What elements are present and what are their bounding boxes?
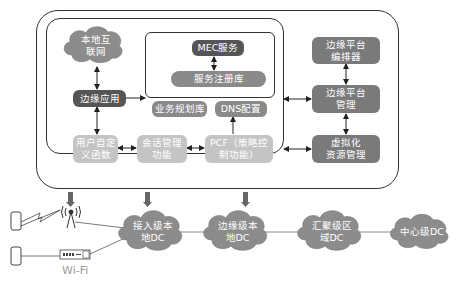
udf-node: 用户自定义函数	[73, 135, 118, 163]
node-label: 边缘应用	[80, 93, 120, 105]
edge-app-node: 边缘应用	[73, 90, 126, 107]
cloud-label-line: 地DC	[133, 232, 173, 244]
cloud-label: 中心级DC	[400, 226, 444, 238]
cloud-label-line: 接入级本	[133, 220, 173, 232]
edge-orchestrator-node: 边缘平台编排器	[312, 37, 380, 64]
node-label-line: 会话管理	[142, 137, 182, 149]
cloud-label-line: 本地互	[81, 34, 111, 46]
cloud-label-line: 域DC	[312, 232, 352, 244]
phone-icon	[11, 212, 21, 265]
node-label: 业务规划库	[155, 103, 205, 115]
node-label-line: 边缘平台	[326, 87, 366, 99]
mec-service-node: MEC服务	[192, 40, 244, 56]
node-label-line: 功能	[142, 149, 182, 161]
wifi-label: Wi-Fi	[62, 264, 88, 277]
node-label-line: 编排器	[326, 51, 366, 63]
node-label-line: 边缘平台	[326, 39, 366, 51]
cloud-label-line: 汇聚级区	[312, 220, 352, 232]
node-label-line: 资源管理	[326, 149, 366, 161]
center-dc-cloud: 中心级DC	[396, 222, 448, 242]
node-label-line: 用户自定	[76, 137, 116, 149]
edge-dc-cloud: 边缘级本地DC	[210, 217, 265, 247]
service-registry-node: 服务注册库	[171, 71, 266, 87]
pcf-node: PCF（策略控制功能）	[205, 135, 273, 163]
local-internet-cloud: 本地互联网	[72, 32, 120, 60]
node-label: MEC服务	[198, 42, 239, 54]
cell-tower-icon	[62, 206, 81, 228]
node-label-line: 义函数	[76, 149, 116, 161]
node-label-line: 制功能）	[210, 149, 268, 161]
node-label: 服务注册库	[194, 73, 244, 85]
access-dc-cloud: 接入级本地DC	[125, 217, 180, 247]
dns-config-node: DNS配置	[215, 101, 267, 117]
aggregation-dc-cloud: 汇聚级区域DC	[304, 217, 359, 247]
session-mgmt-node: 会话管理功能	[137, 135, 187, 163]
lightning-link-icon	[21, 210, 60, 226]
node-label: DNS配置	[221, 103, 261, 115]
cloud-label-line: 联网	[81, 46, 111, 58]
node-label-line: PCF（策略控	[210, 137, 268, 149]
virt-resource-mgmt-node: 虚拟化资源管理	[312, 135, 380, 163]
wifi-router-icon	[60, 250, 90, 259]
node-label-line: 管理	[326, 99, 366, 111]
cloud-label-line: 地DC	[218, 232, 258, 244]
edge-platform-mgmt-node: 边缘平台管理	[312, 85, 380, 113]
cloud-label-line: 边缘级本	[218, 220, 258, 232]
service-planning-node: 业务规划库	[152, 101, 207, 117]
node-label-line: 虚拟化	[326, 137, 366, 149]
